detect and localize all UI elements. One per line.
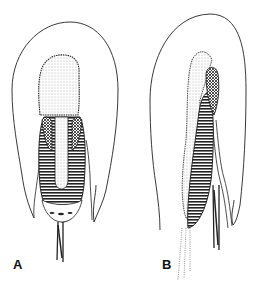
panel-a-drawing [12,22,118,262]
panel-label-a: A [13,257,22,272]
upper-sac [39,55,80,115]
panel-b-drawing [150,14,246,280]
figure-canvas [0,0,258,282]
panel-label-b: B [162,257,171,272]
